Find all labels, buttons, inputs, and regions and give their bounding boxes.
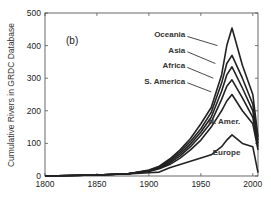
series-line-n-amer	[45, 95, 258, 177]
label-africa: Africa	[163, 61, 186, 70]
y-tick-label: 500	[27, 8, 41, 18]
label-n-amer: N. Amer.	[208, 117, 240, 126]
y-tick-label: 0	[36, 171, 41, 181]
y-axis-label: Cumulative Rivers in GRDC Database	[6, 23, 16, 167]
x-tick-label: 1900	[139, 179, 158, 189]
x-tick-label: 2000	[243, 179, 262, 189]
y-tick-label: 200	[27, 106, 41, 116]
y-tick-label: 400	[27, 41, 41, 51]
label-s-america: S. America	[144, 77, 186, 86]
series-line-asia	[45, 55, 258, 176]
label-asia: Asia	[168, 46, 185, 55]
x-tick-label: 1850	[87, 179, 106, 189]
panel-label: (b)	[66, 35, 78, 46]
x-tick-label: 1950	[191, 179, 210, 189]
plot-axes: 180018501900195020000100200300400500	[27, 8, 263, 189]
series-line-s-america	[45, 80, 258, 176]
y-tick-label: 100	[27, 138, 41, 148]
label-oceania: Oceania	[154, 30, 186, 39]
label-europe: Europe	[213, 148, 241, 157]
chart: 180018501900195020000100200300400500 Oce…	[0, 0, 271, 198]
y-tick-label: 300	[27, 73, 41, 83]
